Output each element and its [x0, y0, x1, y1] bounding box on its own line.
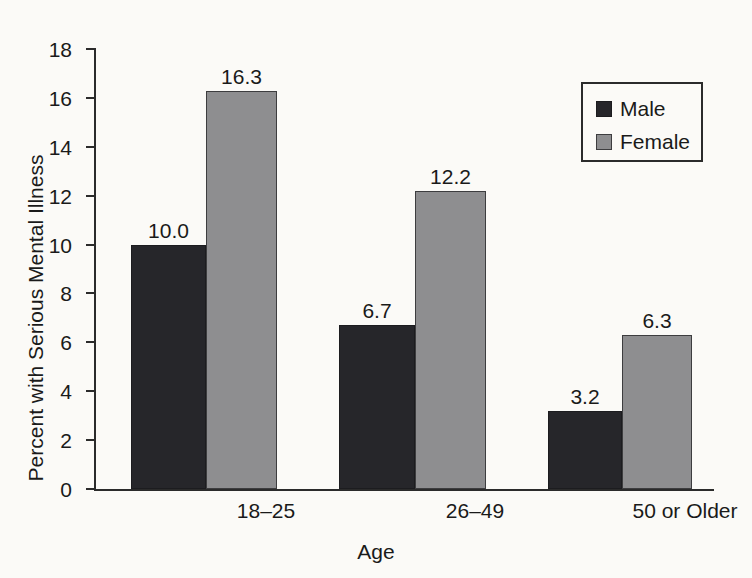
chart-figure: Percent with Serious Mental Illness 0246…: [0, 0, 752, 578]
legend-swatch-male-icon: [596, 101, 612, 117]
y-axis-tick: 8: [86, 292, 95, 294]
x-axis-category-label: 18–25: [237, 500, 295, 521]
y-axis-tick: 2: [86, 439, 95, 441]
legend-item-male[interactable]: Male: [596, 93, 701, 124]
bar-female-0: 16.3: [206, 91, 277, 489]
legend-label-female: Female: [620, 131, 690, 152]
bar-value-label: 3.2: [570, 386, 599, 407]
x-axis-category-label: 26–49: [446, 500, 504, 521]
bar-male-2: 3.2: [548, 411, 622, 489]
y-axis-tick: 0: [86, 488, 95, 490]
y-axis-tick: 18: [86, 48, 95, 50]
y-axis-tick: 16: [86, 97, 95, 99]
chart-legend: Male Female: [581, 82, 703, 162]
bar-value-label: 6.3: [642, 310, 671, 331]
bar-value-label: 6.7: [362, 300, 391, 321]
y-axis-tick-label: 10: [49, 234, 72, 255]
bar-value-label: 12.2: [430, 166, 471, 187]
bar-female-1: 12.2: [415, 191, 486, 489]
y-axis-tick: 6: [86, 341, 95, 343]
legend-swatch-female-icon: [596, 134, 612, 150]
x-axis-category-label: 50 or Older: [632, 500, 737, 521]
y-axis-tick-label: 18: [49, 39, 72, 60]
bar-male-0: 10.0: [131, 245, 206, 489]
legend-label-male: Male: [620, 98, 666, 119]
y-axis-tick-label: 16: [49, 87, 72, 108]
y-axis-tick-label: 6: [60, 332, 72, 353]
y-axis-tick: 10: [86, 244, 95, 246]
x-axis-title: Age: [0, 540, 752, 564]
bar-female-2: 6.3: [622, 335, 692, 489]
y-axis-title: Percent with Serious Mental Illness: [22, 98, 50, 538]
y-axis-tick-label: 2: [60, 430, 72, 451]
bar-male-1: 6.7: [339, 325, 415, 489]
bar-value-label: 16.3: [221, 66, 262, 87]
y-axis-tick: 4: [86, 390, 95, 392]
bar-value-label: 10.0: [148, 220, 189, 241]
y-axis-tick-label: 12: [49, 185, 72, 206]
y-axis-tick-label: 0: [60, 479, 72, 500]
y-axis-tick-label: 14: [49, 136, 72, 157]
y-axis-tick: 12: [86, 195, 95, 197]
x-axis-line: [94, 489, 714, 491]
y-axis-tick: 14: [86, 146, 95, 148]
legend-item-female[interactable]: Female: [596, 126, 701, 157]
y-axis-tick-label: 4: [60, 381, 72, 402]
y-axis-tick-label: 8: [60, 283, 72, 304]
